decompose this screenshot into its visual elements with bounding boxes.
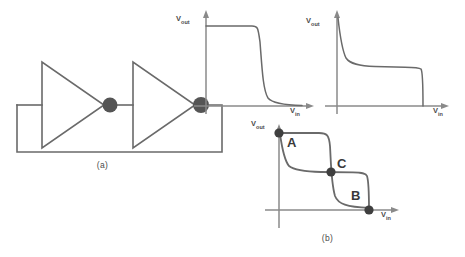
chart-inverter-vtc: Vout Vin — [178, 2, 318, 122]
cross-coupled-inverter-circuit — [0, 0, 205, 185]
vtc2-y-arrow-icon — [334, 10, 340, 18]
point-marker-b — [364, 205, 373, 214]
vtc2-xlabel: Vin — [433, 106, 443, 117]
butterfly-xlabel: Vin — [381, 210, 391, 221]
point-marker-a — [274, 128, 283, 137]
point-marker-c — [326, 167, 335, 176]
vtc1-ylabel: Vout — [176, 14, 190, 25]
inverter1-triangle — [42, 62, 104, 148]
chart-inverted-vtc: Vout Vin — [305, 2, 465, 122]
vtc1-curve — [206, 26, 302, 106]
point-label-c: C — [337, 156, 346, 171]
point-label-a: A — [287, 135, 296, 150]
chart-butterfly-plot: Vout Vin A C B — [245, 116, 410, 241]
vtc2-ylabel: Vout — [306, 16, 320, 27]
panel-b-caption: (b) — [245, 233, 410, 243]
panel-a-caption: (a) — [0, 160, 205, 170]
inverter1-bubble-icon — [103, 98, 118, 113]
butterfly-ylabel: Vout — [251, 119, 265, 130]
point-label-b: B — [351, 188, 360, 203]
vtc2-curve — [338, 18, 423, 106]
vtc1-y-arrow-icon — [203, 10, 209, 18]
butterfly-x-arrow-icon — [391, 207, 399, 213]
figure-root: (a) Vout Vin — [0, 0, 465, 257]
vtc1-xlabel: Vin — [290, 106, 300, 117]
